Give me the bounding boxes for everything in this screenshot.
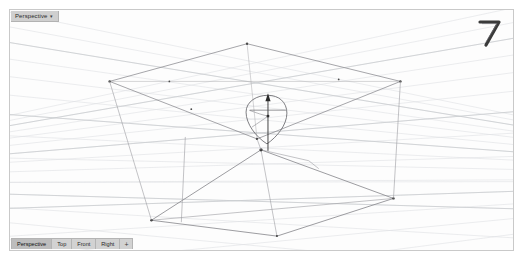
viewport-title-label: Perspective [15, 11, 47, 22]
tab-front-label: Front [77, 239, 90, 250]
tab-top[interactable]: Top [51, 238, 71, 249]
add-viewport-tab-button[interactable]: + [119, 238, 133, 249]
plus-icon: + [124, 239, 128, 250]
viewport-tab-strip[interactable]: Perspective Top Front Right + [11, 238, 133, 249]
tab-front[interactable]: Front [71, 238, 95, 249]
tab-perspective[interactable]: Perspective [11, 238, 51, 249]
application-window: Perspective ▾ Perspective Top Front Righ… [0, 0, 525, 266]
tab-top-label: Top [57, 239, 66, 250]
perspective-viewport[interactable]: Perspective ▾ Perspective Top Front Righ… [9, 9, 514, 251]
camera-axis-gizmo-icon[interactable] [473, 14, 507, 50]
tab-perspective-label: Perspective [17, 239, 46, 250]
tab-right[interactable]: Right [95, 238, 119, 249]
viewport-background [10, 10, 513, 250]
scene-canvas[interactable] [10, 10, 513, 250]
viewport-title-tab[interactable]: Perspective ▾ [11, 11, 59, 22]
tab-right-label: Right [101, 239, 114, 250]
chevron-down-icon[interactable]: ▾ [50, 10, 53, 21]
